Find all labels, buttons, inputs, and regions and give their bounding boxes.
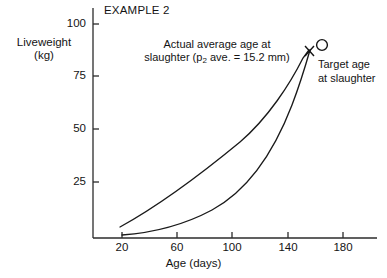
y-tick-label-50: 50 [52,122,86,135]
y-axis-title: Liveweight (kg) [2,36,86,62]
y-tick-label-75: 75 [52,69,86,82]
target-age-annotation: Target age at slaughter [318,58,386,86]
chart-title: EXAMPLE 2 [104,4,170,17]
y-tick-label-25: 25 [52,175,86,188]
y-tick-label-100: 100 [52,17,86,30]
upper-growth-curve [120,50,309,227]
y-axis-title-line2: (kg) [2,49,86,62]
annotation-actual-line1: Actual average age at [163,38,270,50]
x-tick-label-140: 140 [271,241,305,254]
x-tick-label-100: 100 [215,241,249,254]
x-tick-label-20: 20 [105,241,139,254]
y-axis-ticks [93,24,99,182]
lower-growth-curve [122,50,310,235]
chart-figure: EXAMPLE 2 Liveweight (kg) Age (days) 100… [0,0,387,278]
actual-average-age-annotation: Actual average age at slaughter (p2 ave.… [122,38,312,65]
annotation-actual-line2-pre: slaughter (p [144,51,202,63]
target-age-marker [317,40,328,51]
annotation-target-line2: at slaughter [318,72,386,86]
annotation-actual-subscript: 2 [202,56,206,65]
x-tick-label-180: 180 [326,241,360,254]
annotation-target-line1: Target age [318,58,370,70]
annotation-actual-line2-post: ave. = 15.2 mm) [207,51,290,63]
x-axis-title: Age (days) [0,257,387,270]
x-tick-label-60: 60 [160,241,194,254]
x-axis-ticks [122,232,343,238]
y-axis-title-line1: Liveweight [17,36,71,48]
